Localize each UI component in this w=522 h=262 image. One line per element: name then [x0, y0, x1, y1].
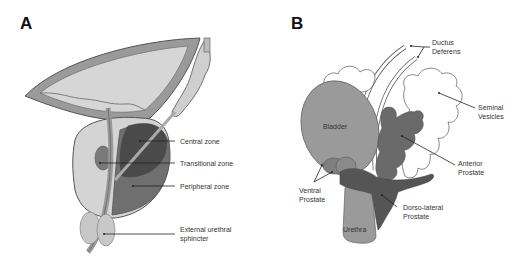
svg-text:Ventral: Ventral	[299, 187, 321, 194]
svg-text:Ductus: Ductus	[432, 39, 454, 46]
svg-text:Anterior: Anterior	[458, 160, 483, 167]
svg-text:Prostate: Prostate	[403, 213, 429, 220]
svg-text:Prostate: Prostate	[458, 169, 484, 176]
svg-text:Urethra: Urethra	[343, 226, 366, 233]
svg-text:Vesicles: Vesicles	[478, 113, 504, 120]
svg-text:Peripheral zone: Peripheral zone	[180, 183, 229, 191]
panel-a-letter: A	[20, 14, 32, 33]
label-external-urethral-sphincter: External urethral sphincter	[103, 226, 232, 243]
svg-text:sphincter: sphincter	[180, 235, 209, 243]
svg-text:Dorso-lateral: Dorso-lateral	[403, 204, 444, 211]
prostate-anatomy-figure: A	[0, 0, 522, 262]
svg-text:Transitional zone: Transitional zone	[180, 160, 233, 167]
panel-b: B Bladder Urethra	[289, 14, 504, 243]
svg-text:Central zone: Central zone	[180, 138, 220, 145]
svg-text:Deferens: Deferens	[432, 48, 461, 55]
svg-text:Seminal: Seminal	[478, 104, 504, 111]
label-ductus-deferens: Ductus Deferens	[410, 39, 461, 58]
svg-text:Prostate: Prostate	[299, 196, 325, 203]
panel-b-letter: B	[291, 14, 303, 33]
svg-text:External urethral: External urethral	[180, 226, 232, 233]
svg-text:Bladder: Bladder	[323, 123, 348, 130]
panel-a: A	[20, 14, 233, 252]
